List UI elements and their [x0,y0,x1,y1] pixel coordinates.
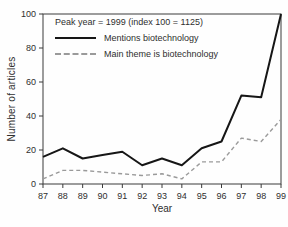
legend: Peak year = 1999 (index 100 = 1125) Ment… [55,17,265,65]
dashed-line-swatch [55,53,96,55]
line-chart-figure: 02040608010087888990919293949596979899 N… [0,0,288,227]
x-tick-label: 95 [197,191,207,201]
solid-line-swatch [55,37,96,39]
y-tick-label: 0 [31,179,36,189]
x-tick-label: 89 [78,191,88,201]
legend-label-mentions: Mentions biotechnology [104,33,199,43]
y-tick-label: 40 [26,111,36,121]
x-tick-label: 87 [38,191,48,201]
legend-item-mentions: Mentions biotechnology [55,33,265,43]
y-tick-label: 100 [21,9,36,19]
legend-item-main-theme: Main theme is biotechnology [55,49,265,59]
x-tick-label: 97 [236,191,246,201]
legend-label-main-theme: Main theme is biotechnology [104,49,218,59]
x-tick-label: 99 [276,191,286,201]
y-tick-label: 20 [26,145,36,155]
series-line-1 [43,119,281,178]
x-tick-label: 92 [137,191,147,201]
x-tick-label: 96 [216,191,226,201]
y-tick-label: 60 [26,77,36,87]
x-tick-label: 98 [256,191,266,201]
x-tick-label: 94 [177,191,187,201]
legend-note: Peak year = 1999 (index 100 = 1125) [55,17,265,27]
x-tick-label: 91 [117,191,127,201]
x-tick-label: 93 [157,191,167,201]
x-axis-title: Year [43,203,281,214]
y-tick-label: 80 [26,43,36,53]
y-axis-title: Number of articles [6,57,17,142]
x-tick-label: 90 [97,191,107,201]
x-tick-label: 88 [58,191,68,201]
